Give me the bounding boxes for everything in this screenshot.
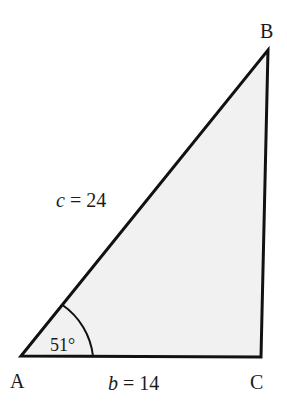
- side-var-c: c: [56, 189, 65, 211]
- side-label-c: c = 24: [56, 189, 106, 211]
- side-label-b: b = 14: [108, 372, 159, 394]
- vertex-label-b: B: [260, 20, 273, 42]
- side-value-c: = 24: [65, 189, 106, 211]
- vertex-label-c: C: [250, 371, 263, 393]
- side-var-b: b: [108, 372, 118, 394]
- angle-label-a: 51°: [50, 335, 75, 355]
- side-value-b: = 14: [118, 372, 159, 394]
- triangle-diagram: B A C c = 24 b = 14 51°: [0, 0, 287, 418]
- vertex-label-a: A: [10, 370, 25, 392]
